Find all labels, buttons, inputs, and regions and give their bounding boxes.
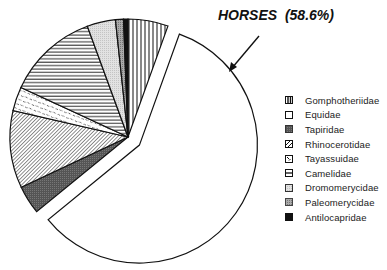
swatch-white-icon: [285, 111, 293, 119]
legend-item-paleomerycidae: Paleomerycidae: [285, 195, 379, 210]
swatch-dashes-icon: [285, 155, 293, 163]
legend-label: Tayassuidae: [305, 153, 359, 164]
legend-label: Tapiridae: [305, 124, 344, 135]
legend-item-tayassuidae: Tayassuidae: [285, 151, 379, 166]
legend-item-equidae: Equidae: [285, 108, 379, 123]
legend-item-antilocapridae: Antilocapridae: [285, 210, 379, 225]
legend-label: Dromomerycidae: [305, 182, 379, 193]
swatch-diagonal-lines-icon: [285, 140, 293, 148]
swatch-medium-stipple-icon: [285, 198, 293, 206]
swatch-light-stipple-icon: [285, 184, 293, 192]
legend-label: Paleomerycidae: [305, 197, 375, 208]
legend-item-tapiridae: Tapiridae: [285, 122, 379, 137]
legend: Gomphotheriidae Equidae Tapiridae Rhinoc…: [285, 93, 379, 224]
swatch-black-icon: [285, 213, 293, 221]
swatch-horizontal-lines-icon: [285, 169, 293, 177]
legend-item-dromomerycidae: Dromomerycidae: [285, 181, 379, 196]
horses-annotation: HORSES (58.6%): [218, 7, 334, 23]
legend-item-camelidae: Camelidae: [285, 166, 379, 181]
swatch-dark-stipple-icon: [285, 125, 293, 133]
pie-slices: [10, 19, 257, 263]
legend-label: Antilocapridae: [305, 212, 367, 223]
annotation-arrow: [232, 36, 259, 68]
legend-label: Camelidae: [305, 168, 351, 179]
legend-label: Equidae: [305, 109, 341, 120]
legend-item-rhinocerotidae: Rhinocerotidae: [285, 137, 379, 152]
legend-label: Gomphotheriidae: [305, 95, 379, 106]
legend-label: Rhinocerotidae: [305, 139, 370, 150]
swatch-vertical-lines-icon: [285, 96, 293, 104]
legend-item-gomphotheriidae: Gomphotheriidae: [285, 93, 379, 108]
